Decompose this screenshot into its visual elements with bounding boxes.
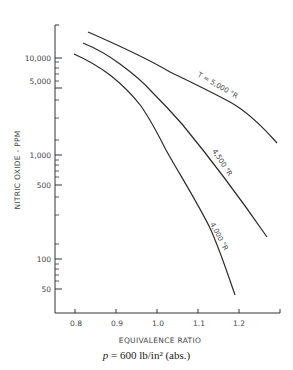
curve-4500R [83,43,267,237]
x-tick-label: 1.2 [233,319,245,328]
curve-label-4500R: 4,500 °R [210,148,233,178]
y-tick-labels: 10,000 5,000 1,000 500 100 50 [25,54,51,294]
y-tick-label: 5,000 [30,77,52,86]
curve-label-4000R: 4,000 °R [208,221,230,252]
y-axis-title: NITRIC OXIDE - PPM [13,130,22,209]
y-tick-label: 500 [37,181,52,190]
y-tick-label: 100 [37,255,52,264]
y-tick-label: 10,000 [25,54,51,63]
caption-text: = 600 lb/in² (abs.) [108,349,190,361]
y-tick-label: 50 [41,285,51,294]
curve-4000R [74,54,235,295]
y-minor-ticks [55,62,59,281]
y-major-ticks [55,58,62,289]
x-tick-label: 1.0 [152,319,164,328]
chart-canvas: 10,000 5,000 1,000 500 100 50 0.8 0.9 1.… [0,0,293,370]
y-tick-label: 1,000 [30,151,52,160]
x-tick-labels: 0.8 0.9 1.0 1.1 1.2 [70,319,245,328]
pressure-caption: p = 600 lb/in² (abs.) [0,349,293,361]
x-ticks [75,309,239,313]
x-tick-label: 0.9 [111,319,123,328]
x-tick-label: 1.1 [193,319,205,328]
x-tick-label: 0.8 [70,319,82,328]
curve-5000R [88,32,277,143]
x-axis-title: EQUIVALENCE RATIO [119,336,201,345]
